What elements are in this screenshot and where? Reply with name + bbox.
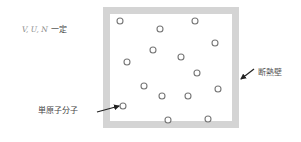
molecule-circle-icon bbox=[185, 93, 191, 99]
molecule-circle-icon bbox=[150, 47, 156, 53]
molecule-circle-icon bbox=[205, 116, 211, 122]
adiabatic-wall-label: 断熱壁 bbox=[258, 66, 282, 77]
molecule-circle-icon bbox=[178, 54, 184, 60]
molecule-circle-icon bbox=[141, 83, 147, 89]
diagram-overlay bbox=[0, 0, 301, 142]
wall-arrow-icon bbox=[241, 69, 254, 79]
molecule-circle-icon bbox=[194, 70, 200, 76]
molecule-circle-icon bbox=[215, 86, 221, 92]
molecule-circle-icon bbox=[159, 93, 165, 99]
molecule-circle-icon bbox=[212, 40, 218, 46]
molecule-circle-icon bbox=[124, 59, 130, 65]
molecule-circle-icon bbox=[157, 26, 163, 32]
molecules-group bbox=[117, 18, 221, 123]
molecule-circle-icon bbox=[192, 18, 198, 24]
molecule-circle-icon bbox=[165, 117, 171, 123]
molecule-arrow-icon bbox=[97, 106, 119, 112]
molecule-circle-icon bbox=[120, 103, 126, 109]
monatomic-molecule-label: 単原子分子 bbox=[38, 104, 78, 115]
molecule-circle-icon bbox=[117, 18, 123, 24]
